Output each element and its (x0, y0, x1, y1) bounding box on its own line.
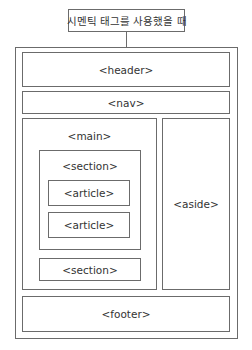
header-label: <header> (99, 64, 154, 76)
article-label-2: <article> (64, 219, 115, 231)
connector-line (126, 32, 127, 47)
article-label-1: <article> (64, 187, 115, 199)
section-label-1: <section> (40, 160, 140, 172)
article-block-1: <article> (48, 180, 130, 206)
aside-label: <aside> (173, 198, 219, 210)
section-block-2: <section> (39, 258, 141, 281)
footer-label: <footer> (101, 308, 150, 320)
header-block: <header> (22, 52, 230, 87)
section-label-2: <section> (62, 264, 117, 276)
article-block-2: <article> (48, 212, 130, 238)
diagram-title: 시멘틱 태그를 사용했을 때 (67, 13, 187, 28)
nav-block: <nav> (22, 91, 230, 114)
aside-block: <aside> (162, 118, 230, 290)
nav-label: <nav> (108, 97, 145, 109)
diagram-title-box: 시멘틱 태그를 사용했을 때 (68, 9, 185, 32)
main-label: <main> (23, 130, 156, 142)
footer-block: <footer> (22, 296, 230, 332)
